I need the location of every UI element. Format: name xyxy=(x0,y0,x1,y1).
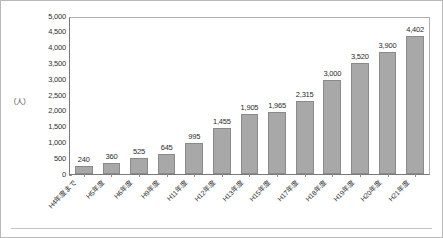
bar-item[interactable]: 240 xyxy=(70,18,98,174)
bar-value-label: 2,315 xyxy=(296,90,314,99)
bar-value-label: 3,520 xyxy=(351,52,369,61)
bar-item[interactable]: 525 xyxy=(125,18,153,174)
bar-value-label: 240 xyxy=(78,155,90,164)
bar-rect[interactable] xyxy=(103,163,121,174)
bar-item[interactable]: 995 xyxy=(180,18,208,174)
bar-item[interactable]: 3,900 xyxy=(374,18,402,174)
bar-item[interactable]: 2,315 xyxy=(291,18,319,174)
y-axis-tick-label: 4,500 xyxy=(48,27,66,36)
bar-series: 2403605256459951,4551,9051,9652,3153,000… xyxy=(70,18,429,174)
bar-rect[interactable] xyxy=(130,158,148,174)
bar-value-label: 995 xyxy=(188,132,200,141)
bar-item[interactable]: 1,455 xyxy=(208,18,236,174)
bar-chart-figure: （人） 5,0004,5004,0003,5003,0002,5002,0001… xyxy=(0,0,443,238)
y-axis-tick-label: 0 xyxy=(62,170,66,179)
bar-value-label: 3,900 xyxy=(379,41,397,50)
bar-rect[interactable] xyxy=(296,101,314,174)
bar-value-label: 3,000 xyxy=(323,69,341,78)
x-axis-label: H4年度まで xyxy=(46,178,78,210)
bar-item[interactable]: 1,965 xyxy=(263,18,291,174)
bar-value-label: 360 xyxy=(105,152,117,161)
y-axis-tick-mark xyxy=(69,175,72,176)
bar-value-label: 1,905 xyxy=(241,103,259,112)
bar-rect[interactable] xyxy=(351,63,369,174)
bar-item[interactable]: 645 xyxy=(153,18,181,174)
bar-item[interactable]: 3,000 xyxy=(318,18,346,174)
bar-value-label: 525 xyxy=(133,147,145,156)
bar-item[interactable]: 1,905 xyxy=(236,18,264,174)
bottom-divider xyxy=(11,228,432,229)
bar-rect[interactable] xyxy=(213,128,231,174)
bar-value-label: 645 xyxy=(161,143,173,152)
bar-item[interactable]: 360 xyxy=(98,18,126,174)
bar-rect[interactable] xyxy=(268,112,286,174)
y-axis-tick-label: 2,500 xyxy=(48,91,66,100)
y-axis-tick-label: 500 xyxy=(54,154,66,163)
bar-item[interactable]: 4,402 xyxy=(401,18,429,174)
y-axis-tick-label: 4,000 xyxy=(48,43,66,52)
bar-rect[interactable] xyxy=(75,166,93,174)
bar-rect[interactable] xyxy=(379,52,397,174)
bar-item[interactable]: 3,520 xyxy=(346,18,374,174)
y-axis-unit-label: （人） xyxy=(9,96,29,107)
y-axis-tick-label: 3,000 xyxy=(48,75,66,84)
bar-rect[interactable] xyxy=(158,154,176,174)
y-axis-tick-label: 3,500 xyxy=(48,59,66,68)
y-axis: 5,0004,5004,0003,5003,0002,5002,0001,500… xyxy=(37,17,69,175)
y-axis-tick-label: 1,000 xyxy=(48,138,66,147)
bar-value-label: 1,455 xyxy=(213,117,231,126)
plot-area: 2403605256459951,4551,9051,9652,3153,000… xyxy=(69,17,430,175)
bar-rect[interactable] xyxy=(406,36,424,174)
y-axis-tick-label: 5,000 xyxy=(48,12,66,21)
x-axis-labels: H4年度までH5年度H6年度H9年度H11年度H12年度H13年度H15年度H1… xyxy=(69,177,430,223)
y-axis-tick-label: 2,000 xyxy=(48,106,66,115)
bar-rect[interactable] xyxy=(241,114,259,174)
y-axis-tick-label: 1,500 xyxy=(48,122,66,131)
bar-value-label: 1,965 xyxy=(268,101,286,110)
bar-value-label: 4,402 xyxy=(406,25,424,34)
bar-rect[interactable] xyxy=(185,143,203,174)
x-axis-label-slot: H21年度 xyxy=(402,177,430,223)
bar-rect[interactable] xyxy=(323,80,341,174)
